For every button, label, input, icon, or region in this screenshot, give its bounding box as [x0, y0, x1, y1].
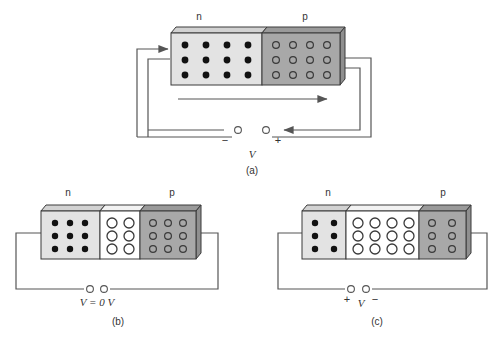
panel-a-voltage-label: V: [249, 148, 257, 160]
panel-b-electrons: [52, 220, 88, 252]
panel-a: n p: [137, 11, 371, 176]
panel-b-n-region: [41, 205, 105, 259]
panel-c-p-region: [419, 205, 471, 259]
wire-left-inner: [148, 59, 170, 137]
panel-a-p-region: [262, 27, 345, 85]
panel-b-p-region: [140, 205, 201, 259]
panel-b-caption: (b): [112, 316, 124, 327]
panel-c: n p: [278, 187, 487, 327]
panel-b-label-p: p: [169, 187, 175, 198]
panel-b: n p: [16, 187, 218, 327]
panel-c-label-p: p: [440, 187, 446, 198]
figure-canvas: n p: [0, 0, 499, 337]
panel-b-label-n: n: [65, 187, 71, 198]
panel-b-terminal-left[interactable]: [87, 286, 94, 293]
panel-c-polarity-left: +: [344, 293, 350, 305]
panel-a-polarity-left: −: [222, 134, 228, 146]
panel-c-depletion-region: [346, 205, 424, 259]
panel-c-caption: (c): [371, 316, 383, 327]
panel-c-terminal-negative[interactable]: [363, 286, 370, 293]
panel-b-terminal-right[interactable]: [101, 286, 108, 293]
panel-c-label-n: n: [325, 187, 331, 198]
panel-a-caption: (a): [246, 165, 258, 176]
panel-a-n-region: [171, 27, 267, 85]
panel-a-polarity-right: +: [275, 134, 281, 146]
panel-a-terminal-positive[interactable]: [263, 127, 270, 134]
wire-left-outer: [137, 49, 168, 137]
panel-a-label-p: p: [302, 11, 308, 22]
panel-a-terminal-negative[interactable]: [235, 127, 242, 134]
panel-c-polarity-right: −: [372, 293, 378, 305]
panel-a-label-n: n: [196, 11, 202, 22]
panel-c-voltage-label: V: [358, 297, 366, 309]
panel-b-depletion-region: [100, 205, 145, 259]
panel-b-voltage-label: V = 0 V: [80, 296, 116, 308]
panel-c-n-region: [302, 205, 351, 259]
panel-c-terminal-positive[interactable]: [348, 286, 355, 293]
